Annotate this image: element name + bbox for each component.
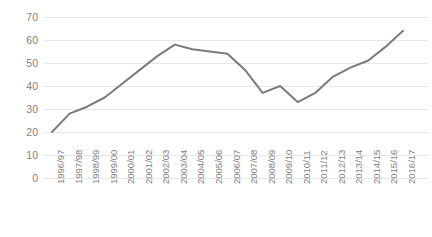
y-tick-label-30: 30	[8, 104, 38, 115]
x-tick-label-2008-09: 2008/09	[267, 150, 277, 184]
x-tick-label-2011-12: 2011/12	[319, 150, 329, 184]
x-tick-label-2007-08: 2007/08	[249, 150, 259, 184]
x-tick-label-1999-00: 1999/00	[109, 150, 119, 184]
y-tick-label-40: 40	[8, 81, 38, 92]
y-tick-label-20: 20	[8, 127, 38, 138]
chart-plot-area	[0, 0, 432, 237]
x-tick-label-2001-02: 2001/02	[144, 150, 154, 184]
x-tick-label-2010-11: 2010/11	[302, 150, 312, 184]
y-tick-label-0: 0	[8, 173, 38, 184]
x-tick-label-2009-10: 2009/10	[284, 150, 294, 184]
series-line-1	[52, 31, 403, 132]
x-tick-label-2005-06: 2005/06	[214, 150, 224, 184]
y-tick-label-70: 70	[8, 12, 38, 23]
y-tick-label-60: 60	[8, 35, 38, 46]
x-tick-label-2002-03: 2002/03	[161, 150, 171, 184]
x-tick-label-2003-04: 2003/04	[179, 150, 189, 184]
x-tick-label-2000-01: 2000/01	[126, 150, 136, 184]
y-tick-label-50: 50	[8, 58, 38, 69]
x-tick-label-2016-17: 2016/17	[407, 150, 417, 184]
x-tick-label-2013-14: 2013/14	[354, 150, 364, 184]
x-tick-label-2014-15: 2014/15	[372, 150, 382, 184]
line-chart: 010203040506070 1996/971997/981998/99199…	[0, 0, 432, 237]
x-tick-label-2012-13: 2012/13	[337, 150, 347, 184]
x-tick-label-2006-07: 2006/07	[232, 150, 242, 184]
y-tick-label-10: 10	[8, 150, 38, 161]
x-tick-label-1998-99: 1998/99	[91, 150, 101, 184]
x-tick-label-1996-97: 1996/97	[56, 150, 66, 184]
x-tick-label-1997-98: 1997/98	[74, 150, 84, 184]
x-tick-label-2004-05: 2004/05	[196, 150, 206, 184]
x-tick-label-2015-16: 2015/16	[389, 150, 399, 184]
